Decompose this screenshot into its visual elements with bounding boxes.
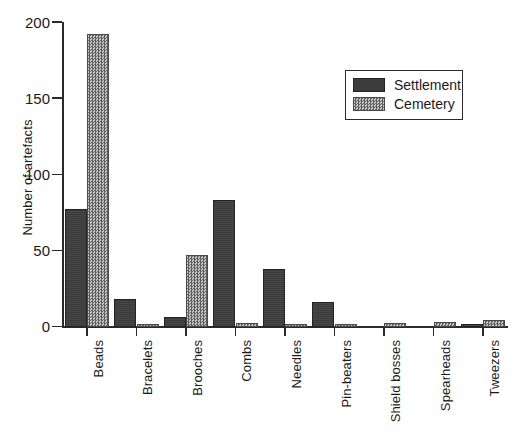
bar-settlement-tweezers [461,324,483,326]
legend-label-cemetery: Cemetery [394,97,455,111]
bar-settlement-needles [263,269,285,327]
x-axis-label-needles: Needles [290,340,303,388]
y-tick-200 [52,21,62,23]
y-tick-label-100: 100 [8,167,50,182]
bar-group [213,22,258,327]
x-tick-3 [235,327,237,336]
bar-group [461,22,506,327]
bar-group [65,22,110,327]
y-tick-label-0: 0 [8,319,50,334]
legend-item-settlement: Settlement [353,77,461,92]
bar-group [263,22,308,327]
bar-cemetery-combs [236,323,258,326]
bar-cemetery-beads [87,34,109,326]
x-axis-label-combs: Combs [240,340,253,382]
x-axis-label-beads: Beads [92,340,105,377]
x-axis-label-pin-beaters: Pin-beaters [340,340,353,408]
bar-group [411,22,456,327]
legend-swatch-settlement [353,78,385,92]
bar-settlement-combs [213,200,235,326]
x-axis-label-shield-bosses: Shield bosses [389,340,402,422]
y-tick-150 [52,97,62,99]
bar-cemetery-needles [285,324,307,326]
bar-group [114,22,159,327]
x-tick-2 [185,327,187,336]
bar-group [362,22,407,327]
y-tick-label-200: 200 [8,15,50,30]
y-tick-label-150: 150 [8,91,50,106]
bar-settlement-bracelets [114,299,136,326]
bar-settlement-brooches [164,317,186,326]
bar-group [164,22,209,327]
y-tick-50 [52,250,62,252]
chart-legend: Settlement Cemetery [345,70,463,120]
bar-cemetery-brooches [186,255,208,327]
x-tick-4 [284,327,286,336]
legend-swatch-cemetery [353,97,385,111]
bar-cemetery-tweezers [483,320,505,326]
x-axis-label-spearheads: Spearheads [439,340,452,411]
x-tick-7 [433,327,435,336]
bar-group [312,22,357,327]
x-axis-label-bracelets: Bracelets [141,340,154,395]
bar-cemetery-shield-bosses [384,323,406,326]
legend-item-cemetery: Cemetery [353,96,455,111]
bar-cemetery-spearheads [434,322,456,327]
bar-settlement-beads [65,209,87,326]
x-tick-0 [86,327,88,336]
x-tick-5 [334,327,336,336]
bar-cemetery-bracelets [137,324,159,326]
legend-label-settlement: Settlement [394,78,461,92]
y-tick-0 [52,326,62,328]
plot-area [62,22,508,327]
x-axis-label-tweezers: Tweezers [488,340,501,396]
x-axis-label-brooches: Brooches [191,340,204,396]
x-tick-6 [383,327,385,336]
y-tick-100 [52,174,62,176]
bar-settlement-pin-beaters [312,302,334,326]
x-tick-8 [482,327,484,336]
bar-cemetery-pin-beaters [335,324,357,326]
x-tick-1 [136,327,138,336]
bar-chart-figure: Number of artefacts 050100150200 BeadsBr… [0,0,517,435]
y-tick-label-50: 50 [8,243,50,258]
